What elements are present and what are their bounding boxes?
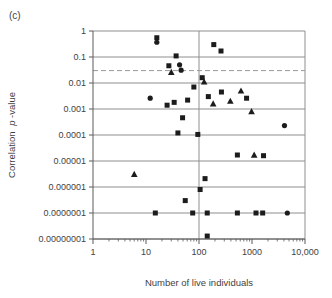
data-point-square <box>235 211 240 216</box>
data-point-triangle <box>168 69 175 75</box>
tick-layer: 10.10.010.0010.00010.000010.0000010.0000… <box>38 26 318 257</box>
y-tick-label: 1 <box>81 26 86 36</box>
data-point-square <box>206 94 211 99</box>
data-point-square <box>218 49 223 54</box>
x-tick-label: 1 <box>90 247 95 257</box>
y-tick-label: 0.00001 <box>53 156 86 166</box>
data-point-square <box>165 103 170 108</box>
data-point-circle <box>177 62 182 67</box>
data-point-square <box>205 234 210 239</box>
chart-canvas: (c) 10.10.010.0010.00010.000010.0000010.… <box>0 0 332 298</box>
data-point-square <box>183 198 188 203</box>
data-point-triangle <box>210 100 217 106</box>
data-point-square <box>254 211 259 216</box>
data-point-triangle <box>251 152 258 158</box>
y-axis-label-suffix: -value <box>6 92 17 118</box>
scatter-plot-panel: (c) 10.10.010.0010.00010.000010.0000010.… <box>0 0 332 298</box>
y-tick-label: 0.000001 <box>48 182 86 192</box>
data-point-square <box>211 42 216 47</box>
data-point-square <box>195 132 200 137</box>
x-tick-label: 10,000 <box>291 247 319 257</box>
y-tick-label: 0.0000001 <box>43 208 86 218</box>
data-point-square <box>203 176 208 181</box>
data-point-square <box>198 187 203 192</box>
data-point-square <box>205 211 210 216</box>
data-point-square <box>153 211 158 216</box>
data-point-square <box>244 96 249 101</box>
data-point-square <box>166 63 171 68</box>
data-point-circle <box>179 68 184 73</box>
data-point-triangle <box>131 171 138 177</box>
data-point-square <box>235 153 240 158</box>
data-point-square <box>219 90 224 95</box>
y-tick-label: 0.001 <box>63 104 86 114</box>
y-tick-label: 0.01 <box>68 78 86 88</box>
data-point-square <box>261 153 266 158</box>
x-axis-label: Number of live individuals <box>145 277 253 288</box>
y-tick-label: 0.1 <box>73 52 86 62</box>
data-point-square <box>190 211 195 216</box>
data-point-square <box>175 130 180 135</box>
data-point-square <box>260 211 265 216</box>
data-point-square <box>154 35 159 40</box>
data-point-circle <box>285 210 290 215</box>
x-tick-label: 100 <box>191 247 206 257</box>
marker-layer <box>131 35 290 238</box>
data-point-circle <box>154 40 159 45</box>
panel-label: (c) <box>9 10 21 21</box>
data-point-square <box>174 53 179 58</box>
y-tick-label: 0.00000001 <box>38 234 86 244</box>
data-point-square <box>191 85 196 90</box>
data-point-triangle <box>238 87 245 93</box>
data-point-circle <box>148 96 153 101</box>
x-tick-label: 1000 <box>242 247 262 257</box>
y-axis-label: Correlation p -value <box>6 92 17 178</box>
y-tick-label: 0.0001 <box>58 130 86 140</box>
data-point-circle <box>282 123 287 128</box>
data-point-triangle <box>227 98 234 104</box>
y-axis-label-prefix: Correlation <box>6 131 17 177</box>
y-axis-label-italic-p: p <box>6 121 17 127</box>
data-point-square <box>185 98 190 103</box>
data-point-square <box>172 100 177 105</box>
x-tick-label: 10 <box>141 247 151 257</box>
data-point-square <box>180 115 185 120</box>
